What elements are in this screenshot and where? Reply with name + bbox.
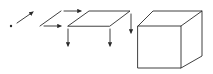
point-extrusion-arrow	[17, 12, 33, 23]
dimension-diagram	[0, 0, 213, 74]
plane-stage	[68, 11, 131, 46]
cube-top-face	[138, 11, 202, 26]
cube-front-face	[138, 26, 181, 68]
line-segment	[40, 11, 61, 26]
point-icon	[10, 25, 12, 27]
cube-right-face	[181, 11, 202, 68]
cube-stage	[138, 11, 202, 68]
plane-parallelogram	[68, 11, 130, 26]
point-stage	[10, 12, 33, 27]
line-stage	[40, 11, 81, 26]
